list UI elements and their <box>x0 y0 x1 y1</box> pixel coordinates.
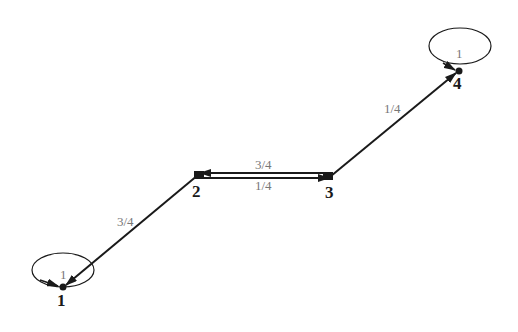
edge-2-to-3: 1/4 <box>198 178 329 193</box>
edge-label-2-3: 1/4 <box>255 178 272 193</box>
edge-label-2-1: 3/4 <box>117 214 134 229</box>
edge-label-1-1: 1 <box>60 267 67 282</box>
edge-4-to-4: 1 <box>429 28 491 70</box>
edge-2-to-1: 3/4 <box>66 175 198 285</box>
edge-3-to-4: 1/4 <box>331 73 456 176</box>
node-label-3: 3 <box>325 183 334 202</box>
node-label-2: 2 <box>192 182 201 201</box>
markov-chain-diagram: 1 3/4 3/4 1/4 1/4 1 1 2 3 4 <box>0 0 518 332</box>
edge-label-3-4: 1/4 <box>384 101 401 116</box>
node-3: 3 <box>323 172 334 202</box>
edge-label-4-4: 1 <box>456 46 463 61</box>
node-label-1: 1 <box>57 291 66 310</box>
node-label-4: 4 <box>453 74 462 93</box>
edge-label-3-2: 3/4 <box>255 157 272 172</box>
node-4: 4 <box>453 68 463 94</box>
node-1: 1 <box>57 284 67 311</box>
edge-3-to-2: 3/4 <box>200 157 331 173</box>
node-2: 2 <box>192 171 204 201</box>
